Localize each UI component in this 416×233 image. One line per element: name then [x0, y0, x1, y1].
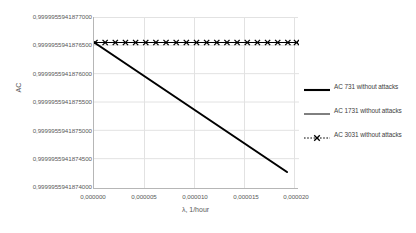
- legend-label: AC 1731 without attacks: [334, 107, 402, 114]
- x-axis-tick-labels: 0,000000 0,000005 0,000010 0,000015 0,00…: [0, 193, 416, 205]
- y-tick-label: 0,9999955941877000: [16, 13, 92, 20]
- y-tick-label: 0,9999955941876000: [16, 70, 92, 77]
- x-axis-title: λ, 1/hour: [93, 206, 298, 213]
- legend-swatch-thin-line: [303, 105, 331, 115]
- y-tick-label: 0,9999955941876500: [16, 41, 92, 48]
- legend-item-ac-731[interactable]: AC 731 without attacks: [303, 74, 416, 98]
- y-tick-label: 0,9999955941874500: [16, 155, 92, 162]
- legend-label: AC 3031 without attacks: [334, 131, 402, 138]
- legend-item-ac-1731[interactable]: AC 1731 without attacks: [303, 98, 416, 122]
- chart-legend: AC 731 without attacks AC 1731 without a…: [303, 74, 416, 146]
- chart-container: AC 0,9999955941877000 0,9999955941876500…: [0, 0, 416, 233]
- legend-item-ac-3031[interactable]: AC 3031 without attacks: [303, 122, 416, 146]
- y-tick-label: 0,9999955941875500: [16, 98, 92, 105]
- x-tick-label: 0,000020: [266, 193, 326, 200]
- legend-swatch-dotted-x-marker: [303, 129, 331, 139]
- series-markers-ac-3031: [94, 40, 299, 45]
- legend-swatch-thick-line: [303, 81, 331, 91]
- series-line-ac-731: [95, 43, 287, 172]
- y-tick-label: 0,9999955941874000: [16, 183, 92, 190]
- plot-area: [93, 17, 298, 189]
- series-layer: [94, 17, 299, 189]
- y-tick-label: 0,9999955941875000: [16, 127, 92, 134]
- legend-label: AC 731 without attacks: [334, 83, 398, 90]
